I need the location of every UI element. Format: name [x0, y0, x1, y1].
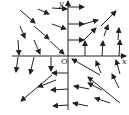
- vector-arrow: [101, 11, 116, 26]
- origin-label: O: [61, 58, 68, 66]
- vector-arrow: [95, 98, 110, 103]
- vector-arrow: [38, 80, 56, 87]
- vector-arrow: [84, 20, 98, 24]
- vector-arrow: [73, 103, 88, 106]
- vector-arrow: [96, 61, 101, 73]
- vector-arrow: [51, 89, 68, 90]
- vector-arrow: [112, 74, 119, 88]
- vector-arrow: [34, 40, 40, 54]
- vector-arrow: [102, 41, 103, 56]
- vector-arrow: [30, 57, 34, 74]
- y-axis-label: y: [59, 0, 64, 8]
- vector-arrow: [20, 10, 35, 23]
- vector-arrow: [119, 40, 120, 56]
- direction-field-figure: y x O: [0, 0, 129, 115]
- vector-arrow: [53, 105, 68, 106]
- vector-arrow: [34, 26, 49, 39]
- vector-arrow: [20, 26, 25, 38]
- vector-arrow: [38, 9, 49, 14]
- vector-arrow: [74, 86, 89, 89]
- x-axis-label: x: [122, 58, 127, 66]
- vector-arrow: [52, 24, 66, 29]
- vector-arrow: [16, 57, 18, 72]
- vector-arrow: [116, 60, 120, 74]
- vector-arrow: [52, 8, 67, 9]
- vector-arrow: [50, 41, 64, 54]
- vector-arrow: [18, 40, 19, 55]
- vector-arrow: [118, 28, 119, 40]
- vector-arrow: [104, 25, 108, 36]
- vector-arrow: [84, 28, 96, 40]
- vector-arrow: [21, 75, 52, 101]
